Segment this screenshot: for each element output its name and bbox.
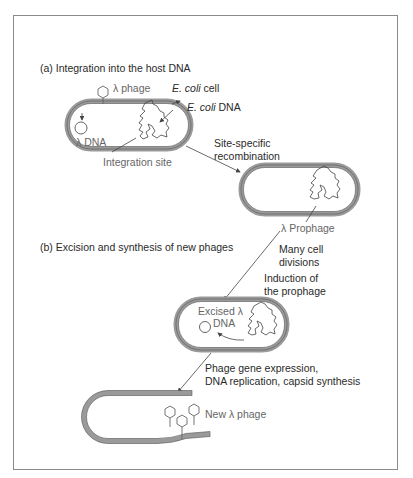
excised-squiggle	[248, 302, 277, 335]
ecoli-dna-label-rest: DNA	[216, 101, 241, 113]
ecoli-cell-label-italic: E. coli	[172, 82, 201, 94]
lambda-dna-circle	[75, 122, 87, 134]
lambda-phage-label: λ phage	[113, 82, 150, 94]
integration-site-label: Integration site	[103, 156, 172, 168]
site-specific-label-1: Site-specific	[214, 137, 271, 149]
phage-expression-label-2: DNA replication, capsid synthesis	[205, 375, 360, 387]
induction-label-1: Induction of	[264, 272, 318, 284]
section-a-heading: (a) Integration into the host DNA	[40, 62, 191, 74]
site-specific-label-2: recombination	[214, 150, 280, 162]
prophage-label: λ Prophage	[281, 222, 335, 234]
ecoli-cell-label-rest: cell	[201, 82, 220, 94]
ecoli-dna-squiggle	[139, 100, 169, 139]
lysed-cell	[82, 391, 211, 444]
prophage-squiggle	[310, 166, 340, 199]
ecoli-dna-label-italic: E. coli	[187, 101, 216, 113]
lambda-dna-label: λ DNA	[76, 136, 106, 148]
many-cell-label-1: Many cell	[279, 243, 323, 255]
phage-expression-label-1: Phage gene expression,	[205, 362, 318, 374]
excised-label-1: Excised λ	[198, 305, 243, 317]
new-phage-label: New λ phage	[205, 408, 266, 420]
ecoli-cell-2	[241, 165, 358, 214]
ecoli-dna-label: E. coli DNA	[187, 101, 241, 113]
many-cell-label-2: divisions	[279, 256, 319, 268]
ecoli-cell-label: E. coli cell	[172, 82, 219, 94]
excised-label-2: DNA	[213, 317, 235, 329]
excised-dna-circle	[200, 322, 211, 333]
section-b-heading: (b) Excision and synthesis of new phages	[40, 241, 233, 253]
induction-label-2: the prophage	[264, 285, 326, 297]
